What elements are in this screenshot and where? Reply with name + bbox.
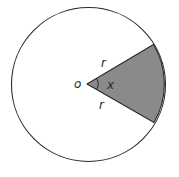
center-label: o — [74, 77, 81, 91]
angle-label: x — [106, 78, 115, 92]
circle-sector-diagram: o r x r — [0, 0, 179, 177]
